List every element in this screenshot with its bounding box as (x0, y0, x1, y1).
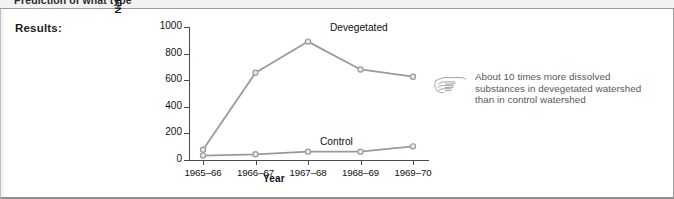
x-tick-mark (413, 160, 414, 165)
y-tick-label: 400 (165, 100, 182, 111)
data-point-marker (358, 67, 363, 72)
data-point-marker (410, 74, 415, 79)
data-point-marker (305, 149, 310, 154)
x-tick-label: 1967–68 (289, 167, 326, 178)
y-tick-mark (184, 54, 189, 55)
data-point-marker (305, 39, 310, 44)
data-point-marker (410, 144, 415, 149)
x-tick-label: 1969–70 (394, 167, 431, 178)
annotation-line-2: substances in devegetated watershed (475, 83, 641, 95)
plot-area: 02004006008001000 1965–661966–671967–681… (189, 27, 429, 161)
y-tick-mark (184, 27, 189, 28)
y-tick-label: 600 (165, 73, 182, 84)
series-label-devegetated: Devegetated (330, 22, 388, 33)
y-axis-line (189, 27, 190, 161)
y-tick-label: 0 (176, 153, 182, 164)
y-tick-mark (184, 133, 189, 134)
series-label-control: Control (320, 136, 353, 147)
y-tick-mark (184, 160, 189, 161)
previous-row-strip: Prediction of what type (0, 0, 674, 9)
y-axis-title: Net dissolved substances (kg/ha) (105, 0, 141, 21)
y-tick-mark (184, 107, 189, 108)
pointing-hand-icon (433, 73, 467, 95)
x-tick-mark (361, 160, 362, 165)
data-point-marker (358, 149, 363, 154)
x-tick-label: 1966–67 (237, 167, 274, 178)
x-tick-label: 1968–69 (342, 167, 379, 178)
x-tick-mark (203, 160, 204, 165)
chart: Net dissolved substances (kg/ha) Year 02… (111, 13, 451, 195)
y-tick-label: 800 (165, 47, 182, 58)
panel-left-edge (1, 9, 4, 197)
annotation-line-3: than in control watershed (475, 94, 641, 106)
series-line (203, 42, 413, 150)
annotation-text: About 10 times more dissolved substances… (475, 71, 641, 106)
y-tick-label: 1000 (160, 20, 182, 31)
results-label: Results: (15, 22, 62, 34)
annotation-line-1: About 10 times more dissolved (475, 71, 641, 83)
x-tick-mark (256, 160, 257, 165)
data-series-lines (189, 27, 429, 161)
screenshot-root: Prediction of what type Results: Net dis… (0, 0, 674, 199)
y-tick-mark (184, 80, 189, 81)
data-point-marker (253, 70, 258, 75)
data-point-marker (200, 147, 205, 152)
annotation-callout: About 10 times more dissolved substances… (433, 71, 671, 106)
x-tick-label: 1965–66 (184, 167, 221, 178)
y-tick-label: 200 (165, 126, 182, 137)
data-point-marker (253, 152, 258, 157)
data-point-marker (200, 153, 205, 158)
results-panel: Results: Net dissolved substances (kg/ha… (0, 9, 674, 199)
x-tick-mark (308, 160, 309, 165)
